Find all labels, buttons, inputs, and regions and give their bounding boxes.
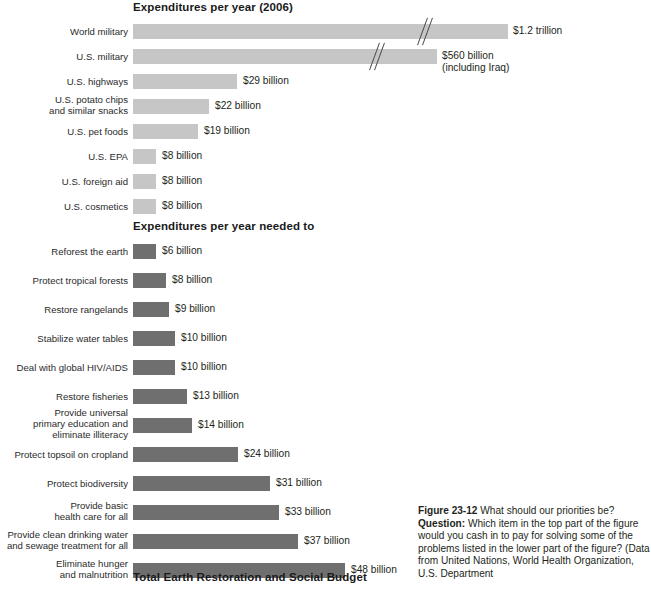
expenditure-row-label: U.S. pet foods (0, 126, 128, 137)
need-row-label: Eliminate hunger and malnutrition (0, 558, 128, 580)
need-bar (133, 534, 298, 549)
need-bar-value: $10 billion (181, 332, 227, 344)
expenditure-bar-value: $8 billion (162, 200, 202, 212)
need-bar (133, 476, 270, 491)
need-row-label: Protect biodiversity (0, 478, 128, 489)
need-bar (133, 302, 169, 317)
need-bar (133, 505, 279, 520)
need-row: Protect tropical forests$8 billion (0, 273, 651, 289)
need-bar (133, 389, 187, 404)
expenditure-row-label: U.S. foreign aid (0, 176, 128, 187)
bottom-section-title: Total Earth Restoration and Social Budge… (133, 571, 367, 583)
need-row: Deal with global HIV/AIDS$10 billion (0, 360, 651, 376)
expenditure-row: U.S. military$560 billion (including Ira… (0, 49, 651, 65)
expenditure-bar-value: $560 billion (including Iraq) (442, 50, 509, 73)
expenditure-row-label: U.S. potato chips and similar snacks (0, 94, 128, 116)
need-bar-value: $37 billion (304, 535, 350, 547)
need-row: Restore rangelands$9 billion (0, 302, 651, 318)
expenditure-bar (133, 74, 237, 89)
need-row-label: Deal with global HIV/AIDS (0, 362, 128, 373)
need-row: Stabilize water tables$10 billion (0, 331, 651, 347)
caption-figure-number: Figure 23-12 (418, 505, 477, 516)
need-row-label: Protect tropical forests (0, 275, 128, 286)
expenditure-row-label: U.S. cosmetics (0, 201, 128, 212)
expenditure-row: World military$1.2 trillion (0, 24, 651, 40)
need-row: Reforest the earth$6 billion (0, 244, 651, 260)
expenditure-bar (133, 49, 437, 64)
need-row-label: Provide clean drinking water and sewage … (0, 529, 128, 551)
expenditure-bar-value: $19 billion (204, 125, 250, 137)
expenditure-bar-value: $8 billion (162, 150, 202, 162)
expenditure-bar (133, 99, 209, 114)
figure-23-12: Expenditures per year (2006) World milit… (0, 0, 651, 590)
top-section-title: Expenditures per year (2006) (133, 1, 293, 13)
expenditure-bar-value: $29 billion (243, 75, 289, 87)
expenditure-bar-value: $22 billion (215, 100, 261, 112)
expenditure-row-label: U.S. military (0, 51, 128, 62)
need-row-label: Protect topsoil on cropland (0, 449, 128, 460)
need-bar-value: $13 billion (193, 390, 239, 402)
need-bar-value: $8 billion (172, 274, 212, 286)
expenditure-row: U.S. pet foods$19 billion (0, 124, 651, 140)
expenditure-row-label: World military (0, 26, 128, 37)
expenditure-bar (133, 24, 508, 39)
axis-break-icon (371, 42, 385, 71)
expenditure-row: U.S. cosmetics$8 billion (0, 199, 651, 215)
expenditure-bar-value: $8 billion (162, 175, 202, 187)
need-bar-value: $33 billion (285, 506, 331, 518)
expenditure-row: U.S. potato chips and similar snacks$22 … (0, 99, 651, 115)
axis-break-icon (419, 17, 433, 46)
figure-caption: Figure 23-12 What should our priorities … (418, 505, 651, 581)
need-row-label: Restore fisheries (0, 391, 128, 402)
need-bar-value: $31 billion (276, 477, 322, 489)
need-bar (133, 273, 166, 288)
expenditure-bar-value: $1.2 trillion (513, 25, 562, 37)
need-bar (133, 447, 238, 462)
expenditure-bar (133, 199, 156, 214)
need-bar-value: $24 billion (244, 448, 290, 460)
caption-question-label: Question: (418, 518, 465, 529)
need-bar (133, 331, 175, 346)
expenditure-row: U.S. highways$29 billion (0, 74, 651, 90)
expenditure-bar (133, 174, 156, 189)
expenditure-row-label: U.S. highways (0, 76, 128, 87)
expenditure-row-label: U.S. EPA (0, 151, 128, 162)
middle-section-title: Expenditures per year needed to (133, 220, 314, 232)
need-row: Protect biodiversity$31 billion (0, 476, 651, 492)
need-bar-value: $9 billion (175, 303, 215, 315)
expenditure-row: U.S. foreign aid$8 billion (0, 174, 651, 190)
need-bar (133, 418, 192, 433)
need-row: Restore fisheries$13 billion (0, 389, 651, 405)
need-row-label: Reforest the earth (0, 246, 128, 257)
need-bar-value: $14 billion (198, 419, 244, 431)
need-row-label: Stabilize water tables (0, 333, 128, 344)
expenditure-bar (133, 149, 156, 164)
expenditure-row: U.S. EPA$8 billion (0, 149, 651, 165)
need-row: Provide universal primary education and … (0, 418, 651, 434)
need-row: Protect topsoil on cropland$24 billion (0, 447, 651, 463)
expenditure-bar (133, 124, 198, 139)
need-row-label: Restore rangelands (0, 304, 128, 315)
need-row-label: Provide universal primary education and … (0, 407, 128, 441)
need-bar-value: $6 billion (162, 245, 202, 257)
need-row-label: Provide basic health care for all (0, 500, 128, 522)
need-bar (133, 360, 175, 375)
caption-headline: What should our priorities be? (480, 505, 614, 516)
need-bar (133, 244, 156, 259)
need-bar-value: $10 billion (181, 361, 227, 373)
